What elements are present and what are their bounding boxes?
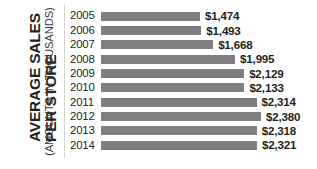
bar-chart: AVERAGE SALES PER STORE (AMOUNTS IN THOU… [0,0,317,169]
bar [101,112,261,121]
bar-track: $1,995 [101,52,317,66]
chart-subtitle: (AMOUNTS IN THOUSANDS) [43,7,55,156]
bar-track: $2,133 [101,81,317,95]
bar-value-label: $1,474 [205,10,239,22]
bar-category-label: 2011 [70,97,101,108]
bar-category-label: 2006 [70,25,101,36]
bar [101,55,235,64]
plot-area: 2005$1,4742006$1,4932007$1,6682008$1,995… [70,9,317,157]
bar-track: $2,380 [101,109,317,123]
bar-value-label: $1,668 [218,39,252,51]
bar [101,98,257,107]
bar-category-label: 2009 [70,68,101,79]
axis-divider-line [64,5,65,158]
bar-category-label: 2012 [70,111,101,122]
bar-row: 2010$2,133 [70,81,317,95]
bar-track: $1,474 [101,9,317,23]
bar-value-label: $1,493 [206,25,240,37]
bar [101,12,200,21]
bar [101,26,201,35]
bar-row: 2006$1,493 [70,23,317,37]
bar-category-label: 2007 [70,39,101,50]
bar-track: $2,321 [101,138,317,152]
bar [101,40,213,49]
bar-track: $1,493 [101,23,317,37]
bar-row: 2011$2,314 [70,95,317,109]
bar-row: 2012$2,380 [70,109,317,123]
bar-category-label: 2013 [70,125,101,136]
bar-category-label: 2008 [70,54,101,65]
bar [101,141,257,150]
bar-value-label: $2,321 [262,139,296,151]
bar-row: 2005$1,474 [70,9,317,23]
bar-track: $1,668 [101,38,317,52]
bar-track: $2,314 [101,95,317,109]
bar-category-label: 2014 [70,140,101,151]
axis-title-area: AVERAGE SALES PER STORE (AMOUNTS IN THOU… [0,0,62,169]
bar-category-label: 2005 [70,10,101,21]
bar-value-label: $2,133 [249,82,283,94]
bar-row: 2008$1,995 [70,52,317,66]
bar [101,69,244,78]
bar-value-label: $1,995 [240,53,274,65]
bar-value-label: $2,318 [262,125,296,137]
bar-value-label: $2,129 [249,68,283,80]
bar [101,126,257,135]
bar-track: $2,318 [101,124,317,138]
bar-row: 2014$2,321 [70,138,317,152]
bar [101,83,244,92]
bar-row: 2007$1,668 [70,38,317,52]
bar-row: 2009$2,129 [70,66,317,80]
bar-category-label: 2010 [70,82,101,93]
bar-track: $2,129 [101,66,317,80]
bar-value-label: $2,314 [262,96,296,108]
bar-row: 2013$2,318 [70,124,317,138]
bar-value-label: $2,380 [266,111,300,123]
chart-subtitle-wrap: (AMOUNTS IN THOUSANDS) [41,16,57,156]
